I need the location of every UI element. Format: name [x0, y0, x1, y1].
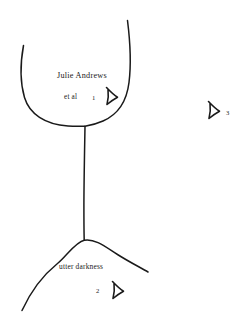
marker-number-2: 2	[96, 288, 99, 295]
label-et-al: et al	[64, 94, 77, 101]
label-julie-andrews: Julie Andrews	[57, 72, 107, 80]
sketch-canvas: Julie Andrews et al utter darkness 1 2 3	[0, 0, 243, 313]
bowl-left-curve	[21, 46, 84, 127]
label-utter-darkness: utter darkness	[59, 263, 103, 270]
marker-number-1: 1	[92, 95, 95, 102]
triangle-cursor-icon	[102, 85, 122, 107]
marker-number-3: 3	[226, 110, 229, 117]
hand-drawn-figure	[0, 0, 243, 313]
stem-line	[84, 126, 85, 240]
triangle-cursor-icon	[108, 279, 128, 301]
triangle-cursor-icon	[204, 99, 224, 121]
base-arc	[22, 240, 148, 311]
